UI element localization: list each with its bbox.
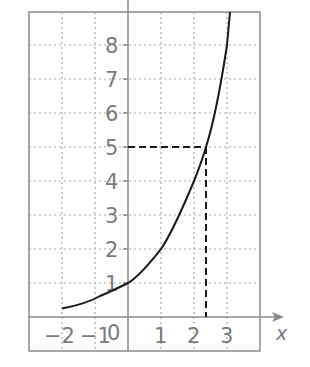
y-tick-5: 5	[105, 136, 118, 160]
x-axis-label: x	[275, 322, 288, 344]
origin-label: 0	[107, 321, 120, 345]
x-tick-2: 2	[187, 324, 200, 348]
y-tick-8: 8	[105, 34, 118, 58]
y-tick-3: 3	[105, 204, 118, 228]
x-tick-neg2: −2	[44, 324, 75, 348]
x-tick-1: 1	[154, 324, 167, 348]
x-tick-3: 3	[220, 324, 233, 348]
y-tick-2: 2	[105, 238, 118, 262]
horizontal-gridlines	[29, 45, 260, 283]
y-tick-7: 7	[105, 68, 118, 92]
y-tick-6: 6	[105, 102, 118, 126]
exponential-chart: 8 7 6 5 4 3 2 1 −2 −1 0 1 2 3 x	[0, 0, 310, 367]
exponential-curve	[62, 12, 230, 309]
y-tick-4: 4	[105, 170, 118, 194]
